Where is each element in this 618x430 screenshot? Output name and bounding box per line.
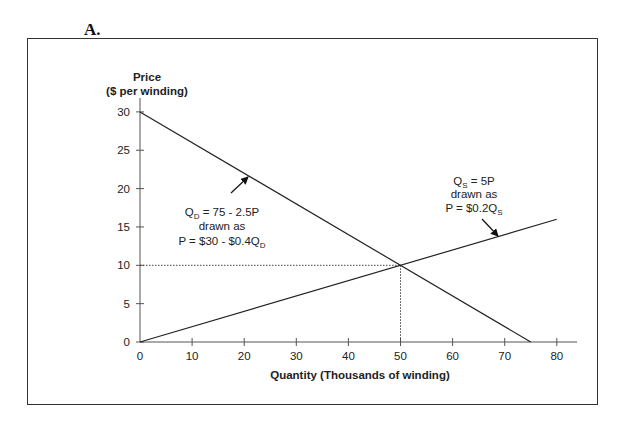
demand-annotation-line1: QD = 75 - 2.5P [185, 206, 260, 221]
x-tick-label: 80 [550, 350, 563, 362]
y-tick-label: 15 [117, 221, 130, 233]
demand-annotation-line2: drawn as [199, 220, 246, 232]
x-tick-label: 0 [137, 350, 143, 362]
chart-svg: 051015202530 01020304050607080 Price ($ … [0, 0, 618, 430]
y-tick-label: 20 [117, 183, 130, 195]
demand-annotation-line3: P = $30 - $0.4QD [178, 235, 265, 250]
supply-annotation-line3: P = $0.2QS [445, 202, 502, 217]
y-tick-label: 5 [124, 298, 130, 310]
x-tick-label: 30 [290, 350, 303, 362]
y-tick-label: 0 [124, 336, 130, 348]
demand-arrow-icon [231, 177, 248, 193]
y-tick-label: 25 [117, 144, 130, 156]
x-tick-label: 60 [446, 350, 459, 362]
y-axis-title-line2: ($ per winding) [106, 85, 188, 97]
x-tick-label: 40 [342, 350, 355, 362]
x-tick-label: 50 [394, 350, 407, 362]
x-tick-label: 20 [238, 350, 251, 362]
supply-arrow-icon [482, 219, 498, 236]
supply-annotation-line2: drawn as [451, 188, 498, 200]
x-tick-label: 10 [186, 350, 199, 362]
y-tick-label: 10 [117, 259, 130, 271]
y-axis-title-line1: Price [133, 71, 161, 83]
y-tick-label: 30 [117, 106, 130, 118]
x-tick-label: 70 [498, 350, 511, 362]
x-axis-title: Quantity (Thousands of winding) [270, 369, 450, 381]
